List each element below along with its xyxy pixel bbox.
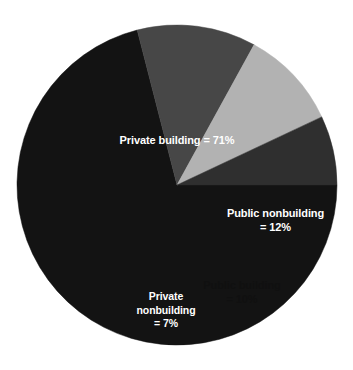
pie-chart-svg	[0, 0, 353, 370]
pie-chart-figure: Private building = 71% Public nonbuildin…	[0, 0, 353, 370]
pie-slice-group	[17, 25, 337, 345]
